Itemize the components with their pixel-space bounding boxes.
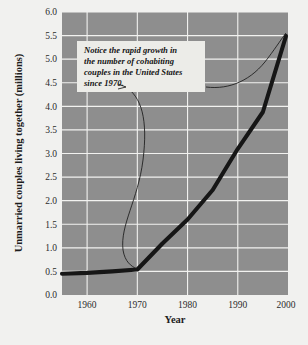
y-tick-label: 3.0 bbox=[45, 149, 57, 159]
x-tick-label: 1970 bbox=[128, 300, 147, 310]
x-tick-label: 2000 bbox=[277, 300, 296, 310]
callout-line-3: couples in the United States bbox=[84, 67, 183, 77]
y-tick-label: 0.0 bbox=[45, 290, 57, 300]
line-chart: 0.0 0.5 1.0 1.5 2.0 2.5 3.0 3.5 4.0 4.5 … bbox=[0, 0, 308, 345]
y-tick-label: 4.0 bbox=[45, 102, 57, 112]
callout-line-1: Notice the rapid growth in bbox=[83, 45, 177, 55]
y-tick-label: 4.5 bbox=[45, 78, 57, 88]
y-tick-label: 1.5 bbox=[45, 220, 57, 230]
y-tick-label: 6.0 bbox=[45, 7, 57, 17]
y-tick-label: 1.0 bbox=[45, 243, 57, 253]
y-axis-title: Unmarried couples living together (milli… bbox=[13, 53, 25, 252]
callout-line-2: the number of cohabiting bbox=[84, 56, 175, 66]
chart-figure: 0.0 0.5 1.0 1.5 2.0 2.5 3.0 3.5 4.0 4.5 … bbox=[0, 0, 308, 345]
x-tick-label: 1980 bbox=[178, 300, 197, 310]
x-tick-label: 1960 bbox=[78, 300, 97, 310]
y-tick-label: 2.5 bbox=[45, 172, 57, 182]
y-tick-label: 2.0 bbox=[45, 196, 57, 206]
callout-line-4: since 1970. bbox=[83, 78, 124, 88]
x-tick-label: 1990 bbox=[228, 300, 247, 310]
x-axis-title: Year bbox=[165, 314, 186, 325]
y-tick-label: 5.0 bbox=[45, 54, 57, 64]
y-tick-label: 3.5 bbox=[45, 125, 57, 135]
y-tick-label: 5.5 bbox=[45, 31, 57, 41]
y-tick-label: 0.5 bbox=[45, 267, 57, 277]
